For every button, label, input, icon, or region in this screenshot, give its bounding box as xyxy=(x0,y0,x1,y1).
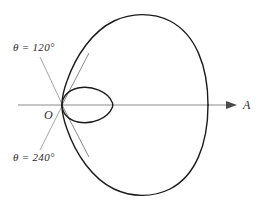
origin-label: O xyxy=(44,109,53,121)
polar-axis-label: A xyxy=(243,99,250,111)
figure-canvas xyxy=(0,0,260,204)
limacon-outer-loop-lower xyxy=(62,105,208,195)
leader-line-120 xyxy=(40,57,62,104)
theta-120-label: θ = 120° xyxy=(13,42,55,53)
polar-limacon-figure: θ = 120° θ = 240° O A xyxy=(0,0,260,204)
limacon-outer-loop-upper xyxy=(62,15,208,105)
theta-240-label: θ = 240° xyxy=(13,152,55,163)
axis-arrowhead-icon xyxy=(226,101,237,109)
